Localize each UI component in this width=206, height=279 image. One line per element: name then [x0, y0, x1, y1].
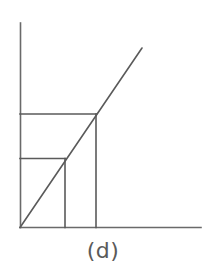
- subfigure-caption: (d): [0, 236, 206, 266]
- figure-panel: (d): [0, 0, 206, 279]
